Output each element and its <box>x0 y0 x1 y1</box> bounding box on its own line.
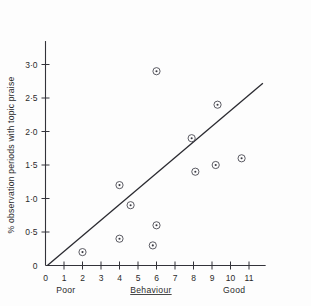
x-anchor-poor: Poor <box>56 285 75 295</box>
data-point-marker <box>127 202 134 209</box>
x-tick-label: 1 <box>62 273 67 283</box>
y-axis-tick-labels: 00·51·01·52·02·53·0 <box>25 60 38 271</box>
x-tick-label: 10 <box>226 273 236 283</box>
marker-center-dot <box>81 251 83 253</box>
marker-center-dot <box>130 204 132 206</box>
data-points <box>79 68 245 256</box>
data-point-marker <box>192 168 199 175</box>
y-tick-label: 0 <box>33 261 38 271</box>
y-tick-label: 3·0 <box>25 60 38 70</box>
marker-center-dot <box>194 171 196 173</box>
marker-center-dot <box>191 137 193 139</box>
marker-center-dot <box>155 224 157 226</box>
marker-center-dot <box>241 157 243 159</box>
marker-center-dot <box>217 104 219 106</box>
x-anchor-behaviour: Behaviour <box>130 285 171 295</box>
data-point-marker <box>153 68 160 75</box>
y-tick-label: 0·5 <box>25 227 38 237</box>
data-point-marker <box>149 242 156 249</box>
y-tick-label: 1·0 <box>25 194 38 204</box>
y-axis-label-text: % observation periods with topic praise <box>6 77 16 234</box>
x-tick-label: 6 <box>154 273 159 283</box>
marker-center-dot <box>215 164 217 166</box>
marker-center-dot <box>152 244 154 246</box>
y-tick-label: 2·0 <box>25 127 38 137</box>
marker-center-dot <box>118 184 120 186</box>
data-point-marker <box>188 135 195 142</box>
data-point-marker <box>212 161 219 168</box>
x-tick-label: 11 <box>245 273 254 283</box>
data-point-marker <box>153 222 160 229</box>
plot-canvas: 00·51·01·52·02·53·0 01234567891011 % obs… <box>0 0 311 306</box>
x-tick-label: 2 <box>80 273 85 283</box>
x-tick-label: 3 <box>99 273 104 283</box>
x-anchor-good: Good <box>223 285 245 295</box>
data-point-marker <box>238 155 245 162</box>
marker-center-dot <box>155 70 157 72</box>
x-axis-tick-labels: 01234567891011 <box>43 273 254 283</box>
x-tick-label: 7 <box>173 273 178 283</box>
regression-line-segment <box>47 83 263 265</box>
x-tick-label: 9 <box>210 273 215 283</box>
y-axis-label: % observation periods with topic praise <box>6 77 16 234</box>
x-tick-label: 0 <box>43 273 48 283</box>
x-axis-anchor-labels: PoorBehaviourGood <box>56 285 245 295</box>
x-tick-label: 8 <box>191 273 196 283</box>
data-point-marker <box>116 182 123 189</box>
data-point-marker <box>214 101 221 108</box>
y-tick-label: 2·5 <box>25 93 38 103</box>
x-tick-label: 5 <box>136 273 141 283</box>
regression-line <box>47 83 263 265</box>
marker-center-dot <box>118 238 120 240</box>
y-tick-label: 1·5 <box>25 160 38 170</box>
data-point-marker <box>79 249 86 256</box>
data-point-marker <box>116 235 123 242</box>
x-tick-label: 4 <box>117 273 122 283</box>
scatter-plot-figure: 00·51·01·52·02·53·0 01234567891011 % obs… <box>0 0 311 306</box>
